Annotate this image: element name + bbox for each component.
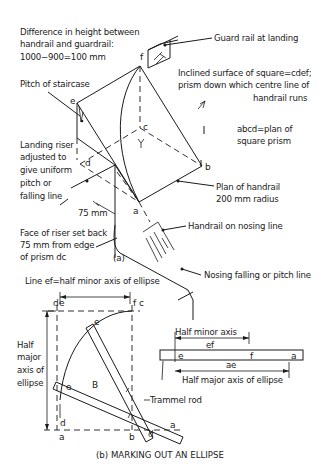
point-b-label: b (205, 162, 211, 172)
staircase-handrail-diagram: Difference in height between handrail an… (0, 0, 325, 471)
point-c-top-label: c (139, 298, 144, 308)
rod-point-a: a (291, 351, 297, 361)
figure-b-caption: (b) MARKING OUT AN ELLIPSE (96, 450, 224, 460)
pitch-of-staircase-label: Pitch of staircase (20, 79, 90, 89)
landing-riser-label: Landing riser (20, 140, 74, 150)
point-e-upper-label: e (94, 317, 100, 327)
ae-label: ae (226, 360, 236, 370)
half-major-rod-label: Half major axis of ellipse (182, 375, 283, 385)
trammel-rod-label: Trammel rod (149, 395, 202, 405)
face-of-riser-label: Face of riser set back (20, 228, 107, 238)
landing-riser-label: give uniform (20, 165, 72, 175)
half-major-axis-label: Half (17, 340, 35, 350)
rod-point-e: e (178, 351, 184, 361)
trammel-rod-detail: Half minor axis ef e f a ae Half major a… (160, 327, 303, 385)
point-e-label: e (70, 96, 76, 106)
figure-a-caption: (a) (113, 253, 125, 263)
half-major-axis-label: major (17, 352, 41, 362)
point-f-top-label: f (133, 298, 137, 308)
guard-rail-box (148, 36, 212, 68)
abcd-plan-label: abcd=plan of (237, 124, 293, 134)
height-difference-value: 1000−900=100 mm (20, 52, 106, 62)
abcd-plan-label: square prism (237, 136, 291, 146)
point-e-top-label: e (59, 298, 65, 308)
landing-riser-label: pitch or (20, 178, 52, 188)
region-b-label: B (92, 380, 98, 390)
guard-rail-label: Guard rail at landing (214, 33, 298, 43)
point-d-lower-label: d (60, 418, 66, 428)
half-minor-axis-label: Half minor axis (175, 327, 238, 337)
plan-of-handrail-label: Plan of handrail (216, 182, 280, 192)
landing-riser-label: adjusted to (20, 152, 66, 162)
point-d-label: d (85, 158, 91, 168)
point-a-rod-label: a (170, 420, 176, 430)
inclined-surface-label: Inclined surface of square=cdef; (178, 68, 311, 78)
face-of-riser-label: of prism dc (20, 252, 66, 262)
point-a-lower-label: a (59, 432, 65, 442)
point-d-top-label: d (53, 298, 59, 308)
half-major-axis-label: ellipse (17, 378, 43, 388)
point-c-label: c (143, 122, 148, 132)
height-difference-label: handrail and guardrail: (20, 39, 114, 49)
point-a-label: a (133, 206, 139, 216)
point-f-label: f (140, 52, 144, 62)
line-ef-label: Line ef=half minor axis of ellipse (25, 276, 160, 286)
inclined-surface-label: handrail runs (253, 93, 308, 103)
direction-arrow-icon (198, 101, 205, 109)
figure-b: Line ef=half minor axis of ellipse Half … (17, 276, 303, 460)
half-major-axis-label: axis of (17, 365, 45, 375)
inclined-surface-label: prism down which centre line of (178, 80, 310, 90)
height-difference-label: Difference in height between (20, 27, 139, 37)
nosing-falling-label: Nosing falling or pitch line (204, 270, 311, 280)
dimension-75mm-label: 75 mm (78, 208, 107, 218)
handrail-on-nosing-label: Handrail on nosing line (188, 221, 282, 231)
landing-riser-label: falling line (20, 191, 62, 201)
point-d-rod-label: d (148, 429, 154, 439)
nosing-handrail-glyph (143, 222, 174, 262)
point-b-label: b (129, 432, 135, 442)
face-of-riser-label: 75 mm from edge (20, 240, 94, 250)
plan-of-handrail-radius: 200 mm radius (216, 194, 279, 204)
ef-label: ef (206, 340, 215, 350)
point-e-lower-label: e (66, 382, 72, 392)
trammel-rod-shallow (53, 382, 183, 444)
